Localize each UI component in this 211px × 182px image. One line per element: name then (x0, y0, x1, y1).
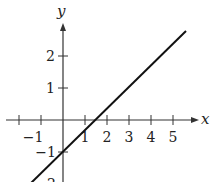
line-chart: −1 1 2 3 4 5 2 1 −1 −2 x y (0, 0, 211, 182)
x-axis-label: x (201, 110, 210, 128)
x-axis-arrow-icon (191, 117, 199, 123)
y-tick-label: 1 (46, 80, 55, 96)
y-axis-label: y (56, 2, 66, 20)
x-tick-label: 4 (147, 129, 156, 145)
x-tick-label: 5 (169, 129, 178, 145)
x-tick-label: 2 (103, 129, 112, 145)
x-tick-label: 3 (125, 129, 134, 145)
y-tick-label: −1 (35, 144, 56, 160)
y-axis-arrow-icon (60, 23, 66, 31)
y-tick-label: 2 (46, 48, 55, 64)
x-tick-label: −1 (23, 129, 44, 145)
